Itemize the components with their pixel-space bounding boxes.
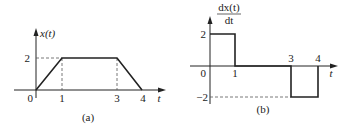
caption-a: (a) <box>82 111 95 124</box>
y-tick-2: 2 <box>25 52 31 64</box>
figure-canvas: x(t) 2 0 1 3 4 t (a) dx(t) dt 2 −2 0 1 3… <box>0 0 352 130</box>
y-tick-2: 2 <box>201 28 207 40</box>
x-tick-0: 0 <box>28 92 34 104</box>
y-axis-label-numerator: dx(t) <box>218 1 240 14</box>
x-axis-label: t <box>329 67 333 79</box>
y-axis-arrow-icon <box>34 28 39 36</box>
x-tick-3: 3 <box>288 52 294 64</box>
y-axis-label-denominator: dt <box>225 14 234 26</box>
y-axis-arrow-icon <box>208 16 213 24</box>
signal-x-trapezoid <box>36 58 142 90</box>
y-axis-label: x(t) <box>39 27 56 40</box>
x-tick-0: 0 <box>201 67 207 79</box>
x-tick-4: 4 <box>140 92 146 104</box>
x-tick-1: 1 <box>232 67 238 79</box>
x-tick-4: 4 <box>315 52 321 64</box>
x-axis-label: t <box>157 92 161 104</box>
figure-b: dx(t) dt 2 −2 0 1 3 4 t (b) <box>190 1 338 116</box>
figure-a: x(t) 2 0 1 3 4 t (a) <box>14 27 166 124</box>
x-tick-3: 3 <box>114 92 120 104</box>
x-tick-1: 1 <box>59 92 65 104</box>
y-tick-neg2: −2 <box>196 91 208 103</box>
caption-b: (b) <box>257 103 270 116</box>
